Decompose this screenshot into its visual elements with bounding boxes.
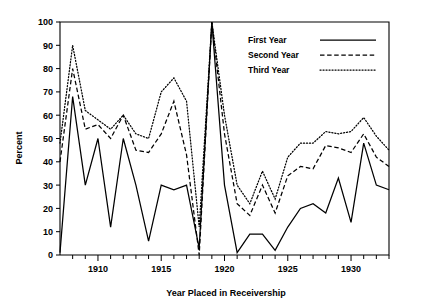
legend-label-first-year: First Year [248, 35, 287, 45]
x-tick-label: 1910 [88, 264, 108, 274]
y-tick-label: 90 [43, 41, 53, 51]
chart-container: 0102030405060708090100 19101915192019251… [0, 0, 422, 305]
y-axis-tick-labels: 0102030405060708090100 [38, 17, 53, 260]
y-tick-label: 0 [48, 250, 53, 260]
y-tick-label: 30 [43, 181, 53, 191]
legend-label-third-year: Third Year [248, 65, 290, 75]
x-axis-ticks [73, 255, 389, 261]
series-line-third-year [60, 22, 389, 227]
chart-legend: First YearSecond YearThird Year [248, 35, 376, 75]
x-axis-label: Year Placed in Receivership [166, 288, 286, 298]
x-axis-tick-labels: 19101915192019251930 [88, 264, 361, 274]
y-tick-label: 10 [43, 227, 53, 237]
y-tick-label: 80 [43, 64, 53, 74]
y-tick-label: 50 [43, 134, 53, 144]
x-tick-label: 1915 [151, 264, 171, 274]
y-axis-label: Percent [14, 131, 24, 164]
data-series-group [60, 22, 389, 255]
y-tick-label: 40 [43, 157, 53, 167]
x-tick-label: 1925 [278, 264, 298, 274]
legend-label-second-year: Second Year [248, 50, 300, 60]
y-tick-label: 70 [43, 87, 53, 97]
y-tick-label: 60 [43, 111, 53, 121]
line-chart: 0102030405060708090100 19101915192019251… [0, 0, 422, 305]
y-tick-label: 20 [43, 204, 53, 214]
y-axis-ticks [56, 22, 60, 255]
y-tick-label: 100 [38, 17, 53, 27]
x-tick-label: 1920 [214, 264, 234, 274]
x-tick-label: 1930 [341, 264, 361, 274]
